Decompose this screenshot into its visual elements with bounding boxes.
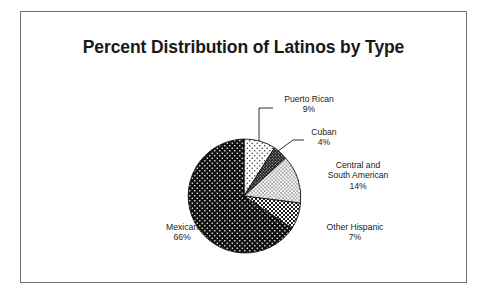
- pie-label-central-south-american: Central and South American 14%: [303, 160, 413, 191]
- chart-frame: Percent Distribution of Latinos by Type: [20, 11, 467, 283]
- pie-label-other-hispanic: Other Hispanic 7%: [305, 222, 405, 243]
- pie-chart-plot: [21, 12, 468, 284]
- pie-label-mexican-value: 66%: [139, 232, 225, 242]
- pie-label-cuban-name: Cuban: [311, 127, 336, 137]
- pie-label-puerto-rican-name: Puerto Rican: [284, 94, 334, 104]
- pie-label-central-south-american-line2: South American: [303, 170, 413, 180]
- pie-label-mexican-name: Mexican: [166, 222, 198, 232]
- pie-label-mexican: Mexican 66%: [139, 222, 225, 243]
- pie-label-central-south-american-line1: Central and: [336, 160, 380, 170]
- pie-label-cuban-value: 4%: [289, 137, 359, 147]
- pie-label-cuban: Cuban 4%: [289, 127, 359, 148]
- pie-label-other-hispanic-name: Other Hispanic: [327, 222, 384, 232]
- pie-label-central-south-american-value: 14%: [303, 181, 413, 191]
- pie-label-puerto-rican-value: 9%: [264, 104, 354, 114]
- pie-label-puerto-rican: Puerto Rican 9%: [264, 94, 354, 115]
- pie-label-other-hispanic-value: 7%: [305, 232, 405, 242]
